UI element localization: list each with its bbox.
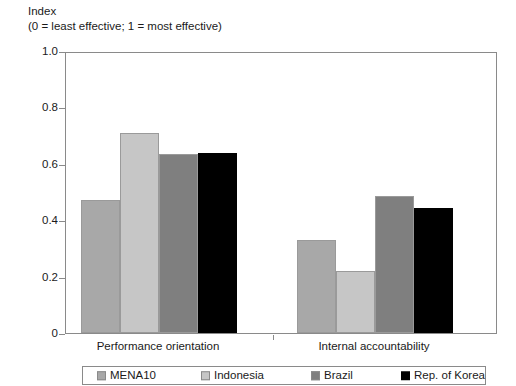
legend-label: Brazil [324, 370, 353, 382]
legend-label: Indonesia [214, 370, 264, 382]
y-axis-tick-labels: 1.00.80.60.40.20 [8, 0, 58, 386]
bar-rep-of-korea-internal-accountability [414, 208, 453, 333]
y-axis-tick-label: 0.2 [12, 272, 58, 284]
chart-legend: MENA10IndonesiaBrazilRep. of Korea [82, 366, 486, 385]
legend-item-mena10: MENA10 [97, 370, 156, 382]
y-axis-tick-mark [59, 165, 65, 166]
bar-indonesia-performance-orientation [120, 133, 159, 333]
x-axis-label-1: Performance orientation [97, 340, 220, 353]
legend-item-indonesia: Indonesia [201, 370, 264, 382]
y-axis-tick-label: 0.6 [12, 159, 58, 171]
legend-label: Rep. of Korea [414, 370, 485, 382]
legend-item-brazil: Brazil [311, 370, 353, 382]
x-axis-label-2: Internal accountability [318, 340, 429, 353]
y-axis-tick-label: 0.4 [12, 215, 58, 227]
plot-area [65, 52, 497, 334]
y-axis-tick-mark [59, 334, 65, 335]
legend-swatch-icon [401, 371, 410, 380]
y-axis-tick-label: 0.8 [12, 103, 58, 115]
bar-indonesia-internal-accountability [336, 271, 375, 333]
y-axis-tick-mark [59, 278, 65, 279]
bar-mena10-internal-accountability [297, 240, 336, 333]
legend-label: MENA10 [110, 370, 156, 382]
legend-item-rep-of-korea: Rep. of Korea [401, 370, 485, 382]
legend-swatch-icon [201, 371, 210, 380]
y-axis-tick-label: 0 [12, 328, 58, 340]
bar-brazil-performance-orientation [159, 154, 198, 333]
bar-mena10-performance-orientation [81, 200, 120, 333]
y-axis-tick-mark [59, 52, 65, 53]
y-axis-tick-mark [59, 108, 65, 109]
legend-swatch-icon [97, 371, 106, 380]
y-axis-tick-mark [59, 221, 65, 222]
bar-brazil-internal-accountability [375, 196, 414, 333]
legend-swatch-icon [311, 371, 320, 380]
bar-rep-of-korea-performance-orientation [198, 153, 237, 333]
y-axis-tick-label: 1.0 [12, 46, 58, 58]
x-axis-mid-tick [273, 335, 274, 340]
